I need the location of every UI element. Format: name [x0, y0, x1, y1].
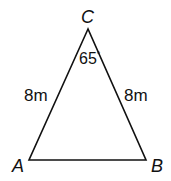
side-label-bc: 8m: [124, 87, 148, 104]
vertex-label-b: B: [151, 157, 163, 175]
degree-symbol: °: [97, 50, 101, 60]
angle-label-c: 65°: [79, 51, 100, 67]
side-label-ac: 8m: [24, 87, 48, 104]
vertex-label-c: C: [81, 8, 94, 26]
angle-value: 65: [79, 50, 97, 67]
vertex-label-a: A: [12, 157, 24, 175]
